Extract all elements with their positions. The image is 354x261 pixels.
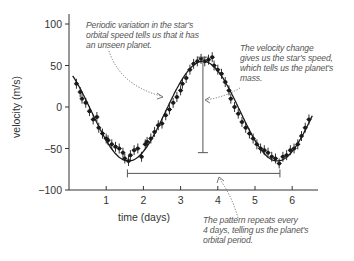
x-tick-label: 6 [289, 194, 295, 206]
annotation-line: 4 days, telling us the planet's [203, 225, 308, 235]
point-marker [255, 142, 259, 146]
point-marker [140, 155, 144, 159]
point-marker [212, 64, 216, 68]
point-marker [285, 153, 289, 157]
data-point [117, 144, 122, 154]
point-marker [180, 82, 184, 86]
y-tick-label: −100 [38, 184, 62, 196]
point-marker [207, 58, 211, 62]
leader-periodic [109, 51, 161, 96]
point-marker [236, 112, 240, 116]
data-point [303, 123, 308, 133]
x-tick-label: 3 [178, 194, 184, 206]
annotation-leaders [109, 51, 240, 218]
data-point [174, 92, 179, 102]
point-marker [149, 137, 153, 141]
point-marker [100, 132, 104, 136]
annotation-line: orbital speed tells us that it has [86, 30, 199, 40]
x-tick-label: 2 [140, 194, 146, 206]
data-point [247, 129, 252, 139]
data-point [262, 145, 267, 155]
data-point [195, 56, 200, 66]
data-point [139, 152, 144, 162]
point-marker [307, 117, 311, 121]
point-marker [74, 82, 78, 86]
data-point [87, 106, 92, 116]
leader-pattern [219, 178, 238, 218]
data-point [91, 114, 96, 124]
point-marker [247, 132, 251, 136]
data-point [135, 144, 140, 154]
point-marker [106, 138, 110, 142]
y-tick-label: −50 [44, 143, 62, 155]
point-marker [164, 113, 168, 117]
x-tick-label: 4 [215, 194, 221, 206]
data-point [306, 114, 311, 124]
data-point [273, 153, 278, 163]
data-point [288, 145, 293, 155]
point-marker [145, 140, 149, 144]
point-marker [110, 142, 114, 146]
point-marker [303, 126, 307, 130]
point-marker [251, 137, 255, 141]
annotation-pattern-repeats: The pattern repeats every 4 days, tellin… [203, 215, 308, 245]
point-marker [262, 148, 266, 152]
point-marker [117, 147, 121, 151]
point-marker [123, 156, 127, 160]
data-point [163, 110, 168, 120]
point-marker [277, 161, 281, 165]
point-marker [121, 151, 125, 155]
point-marker [188, 68, 192, 72]
point-marker [227, 88, 231, 92]
point-marker [240, 120, 244, 124]
x-tick-label: 1 [103, 194, 109, 206]
point-marker [223, 80, 227, 84]
data-point [83, 98, 88, 108]
point-marker [97, 126, 101, 130]
arrowhead-icon [217, 177, 224, 183]
point-marker [179, 88, 183, 92]
annotation-periodic-variation: Periodic variation in the star's orbital… [86, 20, 199, 50]
annotation-velocity-change: The velocity change gives us the star's … [240, 43, 333, 83]
point-marker [220, 72, 224, 76]
point-marker [167, 107, 171, 111]
y-axis-label: velocity (m/s) [10, 76, 22, 138]
annotation-line: The velocity change [240, 43, 333, 53]
point-marker [80, 97, 84, 101]
data-point [109, 139, 114, 149]
data-point [74, 79, 79, 89]
data-point [132, 145, 137, 155]
annotation-line: mass. [240, 73, 333, 83]
point-marker [229, 97, 233, 101]
point-marker [136, 147, 140, 151]
annotation-line: Periodic variation in the star's [86, 20, 199, 30]
y-tick-label: 100 [44, 18, 62, 30]
point-marker [273, 156, 277, 160]
point-marker [266, 151, 270, 155]
point-marker [233, 105, 237, 109]
point-marker [210, 55, 214, 59]
point-marker [78, 90, 82, 94]
point-marker [175, 95, 179, 99]
point-marker [300, 134, 304, 138]
point-marker [87, 109, 91, 113]
y-tick-label: 0 [56, 101, 62, 113]
data-point [243, 123, 248, 133]
annotation-line: an unseen planet. [86, 40, 199, 50]
point-marker [216, 68, 220, 72]
data-point [152, 127, 157, 137]
data-point [219, 69, 224, 79]
point-marker [153, 130, 157, 134]
point-marker [171, 101, 175, 105]
annotation-line: orbital period. [203, 235, 308, 245]
point-marker [128, 153, 132, 157]
x-axis-label: time (days) [118, 211, 170, 223]
point-marker [84, 101, 88, 105]
annotation-line: gives us the star's speed, [240, 53, 333, 63]
point-marker [292, 147, 296, 151]
point-marker [192, 62, 196, 66]
data-point [184, 73, 189, 83]
point-marker [244, 126, 248, 130]
point-marker [184, 76, 188, 80]
annotation-line: The pattern repeats every [203, 215, 308, 225]
